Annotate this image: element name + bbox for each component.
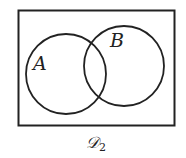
set-a-label: A [31,52,47,74]
set-b-label: B [109,29,124,51]
set-b-circle [84,26,164,106]
venn-diagram: A B 𝒟2 [0,0,186,158]
universe-label: 𝒟2 [86,133,106,154]
set-a-circle [26,34,106,114]
